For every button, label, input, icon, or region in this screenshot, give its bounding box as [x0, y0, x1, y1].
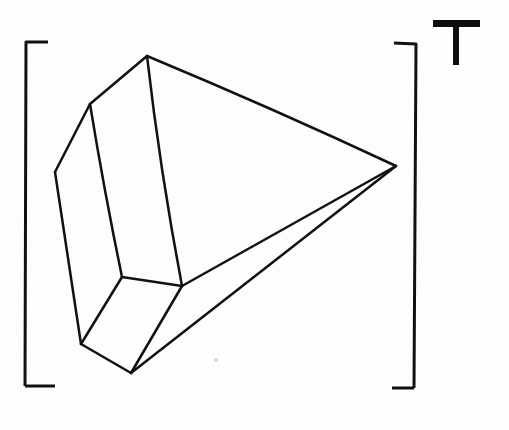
figure-label-t	[433, 20, 480, 65]
bracket-top-left	[25, 42, 48, 386]
edge-inner-left-to-inner-right	[122, 277, 182, 286]
figure-canvas: A faceted wedge-like solid shown in obli…	[0, 0, 509, 430]
solid-edge-group	[55, 56, 396, 373]
edge-apex-to-upper-left	[90, 56, 147, 104]
edge-bottom-left-to-bottom-apex	[81, 344, 131, 373]
edge-upper-left-to-inner-left	[90, 104, 122, 277]
edge-left-mid-to-bottom-left	[55, 172, 81, 344]
edge-inner-right-to-bottom-apex	[131, 286, 182, 373]
edge-apex-to-inner-right	[147, 56, 182, 286]
edge-bottom-apex-to-right-apex	[131, 166, 396, 373]
paper-speck-artifact	[214, 358, 218, 362]
bracket-group	[25, 42, 416, 388]
edge-apex-to-right-apex	[147, 56, 396, 166]
edge-inner-right-to-right-apex	[182, 166, 396, 286]
bracket-top-right	[394, 43, 416, 388]
polyhedron-drawing	[0, 0, 509, 430]
edge-inner-left-to-bottom-left	[81, 277, 122, 344]
t-stem	[453, 20, 459, 65]
edge-upper-left-to-left-mid	[55, 104, 90, 172]
